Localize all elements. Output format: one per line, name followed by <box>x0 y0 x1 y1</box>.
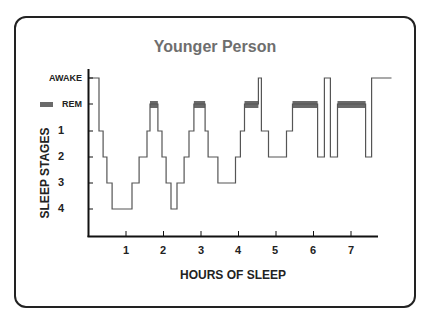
sleep-stage-trace <box>89 78 392 209</box>
hypnogram-plot <box>0 0 430 323</box>
axes <box>88 69 379 237</box>
